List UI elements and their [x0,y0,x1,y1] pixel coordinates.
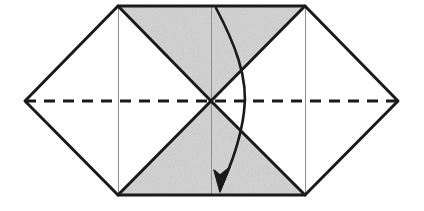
origami-fold-diagram [0,0,424,211]
diagram-root [0,0,424,211]
